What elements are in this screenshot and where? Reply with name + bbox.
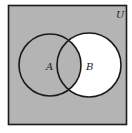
universe-label: U (116, 9, 125, 20)
set-b-label: B (85, 61, 93, 72)
set-a-label: A (45, 61, 53, 72)
venn-diagram: U A B (0, 0, 132, 133)
